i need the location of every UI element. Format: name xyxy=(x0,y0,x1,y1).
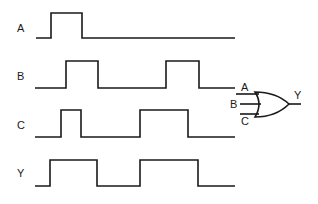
waveform-b xyxy=(35,61,235,88)
gate-label-y: Y xyxy=(294,89,302,101)
gate-label-c: C xyxy=(241,115,249,127)
waveform-a xyxy=(36,13,235,38)
waveform-y xyxy=(35,160,235,186)
or-gate: A B C Y xyxy=(230,81,302,127)
gate-label-b: B xyxy=(230,98,237,110)
signal-label-c: C xyxy=(17,119,25,131)
signal-label-a: A xyxy=(17,22,25,34)
signal-label-b: B xyxy=(17,70,24,82)
timing-diagram: ABCY A B C Y xyxy=(0,0,318,204)
signal-label-y: Y xyxy=(17,167,25,179)
waveform-c xyxy=(35,110,235,137)
gate-label-a: A xyxy=(241,81,249,93)
